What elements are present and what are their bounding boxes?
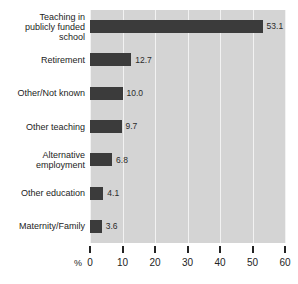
bar-row: 4.1 xyxy=(90,187,119,200)
bar-chart: Teaching in publicly funded schoolRetire… xyxy=(0,0,298,284)
bar xyxy=(90,20,263,33)
bar-value-label: 12.7 xyxy=(135,56,152,65)
x-tick-50 xyxy=(252,246,254,253)
bar-value-label: 10.0 xyxy=(127,89,144,98)
x-tick-60 xyxy=(284,246,286,253)
category-label: Retirement xyxy=(0,55,85,65)
gridline-60 xyxy=(285,10,286,243)
bar-row: 12.7 xyxy=(90,53,152,66)
bar xyxy=(90,53,131,66)
x-tick-20 xyxy=(154,246,156,253)
bar xyxy=(90,120,122,133)
bar-value-label: 6.8 xyxy=(116,156,128,165)
gridline-30 xyxy=(188,10,189,243)
bar-row: 3.6 xyxy=(90,220,118,233)
x-tick-label: 50 xyxy=(241,257,265,269)
x-axis-unit-label: % xyxy=(68,257,82,269)
x-tick-label: 30 xyxy=(176,257,200,269)
x-tick-label: 60 xyxy=(273,257,297,269)
bar-row: 53.1 xyxy=(90,20,283,33)
bar xyxy=(90,187,103,200)
bar-value-label: 4.1 xyxy=(107,189,119,198)
category-label: Other education xyxy=(0,188,85,198)
bar xyxy=(90,220,102,233)
category-label: Alternative employment xyxy=(0,150,85,170)
bar xyxy=(90,153,112,166)
bar-row: 6.8 xyxy=(90,153,128,166)
x-tick-10 xyxy=(122,246,124,253)
category-label: Maternity/Family xyxy=(0,221,85,231)
bar xyxy=(90,87,123,100)
bar-row: 10.0 xyxy=(90,87,143,100)
x-tick-0 xyxy=(89,246,91,253)
bar-value-label: 53.1 xyxy=(267,22,284,31)
x-tick-label: 20 xyxy=(143,257,167,269)
x-tick-label: 10 xyxy=(111,257,135,269)
x-tick-label: 40 xyxy=(208,257,232,269)
gridline-20 xyxy=(155,10,156,243)
gridline-40 xyxy=(220,10,221,243)
bar-value-label: 9.7 xyxy=(126,122,138,131)
x-tick-40 xyxy=(219,246,221,253)
gridline-50 xyxy=(253,10,254,243)
category-label: Other teaching xyxy=(0,122,85,132)
category-label: Teaching in publicly funded school xyxy=(0,12,85,42)
x-tick-30 xyxy=(187,246,189,253)
bar-value-label: 3.6 xyxy=(106,222,118,231)
category-label: Other/Not known xyxy=(0,88,85,98)
bar-row: 9.7 xyxy=(90,120,137,133)
